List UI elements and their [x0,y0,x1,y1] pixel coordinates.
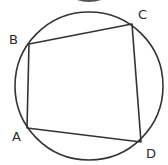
vertex-label-d: D [146,146,156,161]
vertex-label-a: A [12,129,21,144]
vertex-label-b: B [9,32,18,47]
top-edge-artifact [73,0,105,2]
quadrilateral-abcd [27,24,141,142]
cyclic-quadrilateral-diagram: B C A D [0,0,168,165]
vertex-label-c: C [138,7,147,22]
